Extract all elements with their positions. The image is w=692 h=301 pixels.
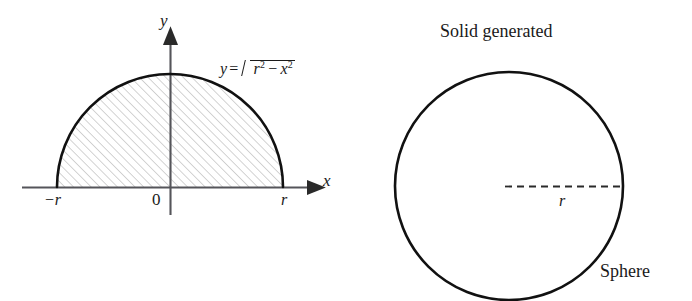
figure-root: y x −r 0 r y=r2−x2 Solid generated r Sph… <box>0 0 692 301</box>
y-axis-label: y <box>160 12 168 29</box>
sphere-caption: Sphere <box>600 262 650 280</box>
radicand-second-exponent: 2 <box>288 59 293 70</box>
x-tick-label-negative-r: −r <box>44 192 61 208</box>
radicand-operator: − <box>265 60 280 77</box>
solid-generated-caption: Solid generated <box>440 22 552 40</box>
sphere-radius-label: r <box>559 193 565 209</box>
curve-equation-label: y=r2−x2 <box>220 58 295 77</box>
sphere-panel: Solid generated r Sphere <box>346 0 692 301</box>
origin-label: 0 <box>152 191 161 208</box>
sphere-graphic <box>346 0 692 301</box>
semicircle-region-panel: y x −r 0 r y=r2−x2 <box>0 0 346 301</box>
semicircle-region-graphic <box>0 0 346 301</box>
radicand: r2−x2 <box>252 58 295 77</box>
x-tick-label-r: r <box>281 192 287 208</box>
x-axis-label: x <box>323 172 331 189</box>
radical-sign: r2−x2 <box>241 58 295 77</box>
equation-equals: = <box>227 60 240 77</box>
radicand-second-base: x <box>280 60 287 77</box>
